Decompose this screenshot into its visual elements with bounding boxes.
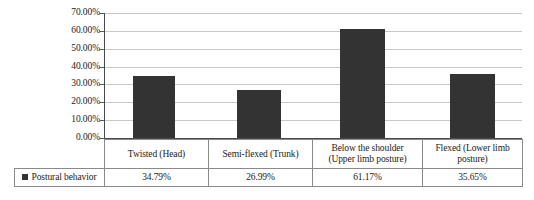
gridline-60 (104, 31, 522, 32)
category-label-line-1: Below the shoulder (331, 143, 403, 153)
category-label-line-1: Twisted (Head) (128, 149, 185, 159)
category-label-line-2: posture) (457, 154, 487, 164)
category-label-line-2: (Upper limb posture) (328, 154, 406, 164)
y-tick-mark-70 (100, 13, 104, 14)
y-axis-label-group: 70.00% 60.00% 50.00% 40.00% 30.00% 20.00… (42, 13, 100, 138)
gridline-70 (104, 13, 522, 14)
y-tick-label-10: 10.00% (71, 115, 100, 125)
y-tick-label-20: 20.00% (71, 97, 100, 107)
gridline-40 (104, 67, 522, 68)
legend-cell-postural-behavior: Postural behavior (15, 169, 105, 187)
y-tick-label-60: 60.00% (71, 26, 100, 36)
y-tick-label-40: 40.00% (71, 62, 100, 72)
legend-label: Postural behavior (31, 172, 96, 183)
y-tick-mark-10 (100, 120, 104, 121)
value-cell-twisted-head: 34.79% (105, 169, 209, 187)
value-cell-semi-flexed-trunk: 26.99% (209, 169, 313, 187)
category-cell-twisted-head: Twisted (Head) (105, 140, 209, 169)
y-tick-mark-20 (100, 102, 104, 103)
table-corner-blank (15, 140, 105, 169)
y-tick-mark-50 (100, 49, 104, 50)
category-label-line-1: Semi-flexed (Trunk) (222, 149, 298, 159)
category-cell-below-the-shoulder: Below the shoulder (Upper limb posture) (313, 140, 423, 169)
bar-chart-figure: 70.00% 60.00% 50.00% 40.00% 30.00% 20.00… (0, 0, 534, 200)
bar-semi-flexed-trunk (237, 90, 281, 138)
y-tick-label-50: 50.00% (71, 44, 100, 54)
category-label-line-1: Flexed (Lower limb (435, 143, 509, 153)
table-row-categories: Twisted (Head) Semi-flexed (Trunk) Below… (15, 140, 523, 169)
y-axis-line (104, 13, 105, 139)
y-tick-mark-60 (100, 31, 104, 32)
bar-twisted-head (133, 76, 175, 138)
value-cell-flexed-lower-limb: 35.65% (423, 169, 523, 187)
y-tick-mark-30 (100, 84, 104, 85)
plot-wrapper: 70.00% 60.00% 50.00% 40.00% 30.00% 20.00… (0, 0, 534, 140)
bar-flexed-lower-limb (450, 74, 495, 138)
y-tick-label-30: 30.00% (71, 79, 100, 89)
y-tick-mark-40 (100, 67, 104, 68)
y-tick-label-70: 70.00% (71, 8, 100, 18)
bar-below-the-shoulder (340, 29, 385, 138)
legend-swatch-icon (22, 174, 28, 180)
value-cell-below-the-shoulder: 61.17% (313, 169, 423, 187)
gridline-50 (104, 49, 522, 50)
table-row-values: Postural behavior 34.79% 26.99% 61.17% 3… (15, 169, 523, 187)
chart-data-table: Twisted (Head) Semi-flexed (Trunk) Below… (14, 139, 523, 187)
category-cell-semi-flexed-trunk: Semi-flexed (Trunk) (209, 140, 313, 169)
plot-area (104, 13, 522, 138)
category-cell-flexed-lower-limb: Flexed (Lower limb posture) (423, 140, 523, 169)
